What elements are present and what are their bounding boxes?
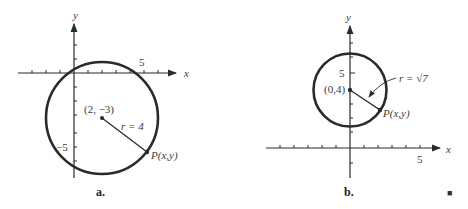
end-of-example-mark: ■ — [447, 188, 452, 198]
panel-a-y-axis — [74, 24, 77, 178]
panel-b-radius-leader-arrow — [369, 78, 396, 97]
panel-a-x-label: x — [183, 67, 189, 79]
panel-a-caption: a. — [96, 185, 105, 199]
panel-b-y-axis — [350, 26, 355, 178]
panel-b-center-label: (0,4) — [324, 83, 345, 96]
panel-a-radius-label: r = 4 — [121, 120, 144, 132]
panel-b: y x 5 5 (0,4) r = √7 P(x,y) b. — [266, 11, 451, 199]
panel-a-center-label: (2, −3) — [84, 103, 114, 116]
panel-a-y-tick-label: −5 — [56, 141, 68, 153]
diagram-canvas: y x 5 −5 (2, −3) r = 4 P(x,y) a. — [0, 0, 468, 209]
panel-a-point-dot — [145, 150, 149, 154]
panel-b-radius-line — [350, 90, 380, 110]
panel-b-x-axis — [266, 145, 440, 148]
panel-a-y-label: y — [72, 9, 78, 21]
panel-b-y-label: y — [345, 11, 351, 23]
panel-a-x-axis — [18, 70, 176, 73]
panel-b-caption: b. — [344, 185, 354, 199]
panel-a-x-tick-label: 5 — [139, 56, 145, 68]
panel-b-point-dot — [378, 108, 382, 112]
panel-a-center-dot — [100, 116, 104, 120]
panel-b-center-dot — [348, 88, 352, 92]
panel-b-x-tick-label: 5 — [417, 153, 423, 165]
panel-b-y-tick-label: 5 — [339, 67, 345, 79]
panel-a-point-label: P(x,y) — [150, 149, 178, 162]
panel-b-radius-label: r = √7 — [399, 72, 428, 84]
panel-a: y x 5 −5 (2, −3) r = 4 P(x,y) a. — [18, 9, 189, 199]
panel-b-x-label: x — [445, 143, 451, 155]
panel-b-point-label: P(x,y) — [382, 107, 410, 120]
